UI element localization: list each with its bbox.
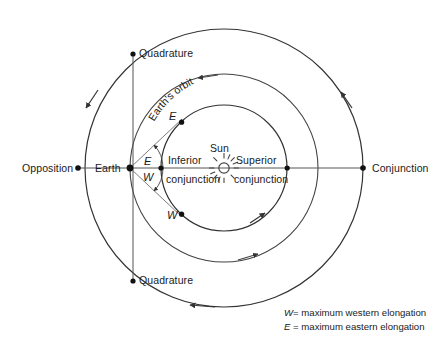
outer-orbit-direction-arrow-2 [341,92,352,108]
marker-opposition [75,165,81,171]
legend-text-west: maximum western elongation [301,307,426,318]
marker-quadrature-bottom [130,278,135,283]
label-quadrature-bottom: Quadrature [139,274,193,286]
label-sun: Sun [210,142,229,154]
label-earth: Earth [95,162,121,174]
label-elongation-east-angle: E [144,155,151,168]
marker-point-east [179,120,184,125]
marker-quadrature-top [130,51,135,56]
outer-orbit-direction-arrow [86,90,98,108]
marker-earth [127,165,134,172]
legend-equals-east: = [293,321,299,332]
label-superior-conjunction-line2: conjunction [234,173,288,185]
marker-conjunction [360,165,366,171]
label-point-west: W [167,209,177,222]
marker-superior-conjunction [285,165,290,170]
label-quadrature-top: Quadrature [139,47,193,59]
label-inferior-conjunction-line1: Inferior [168,154,201,166]
label-point-east: E [169,110,176,123]
legend-row-east: E = maximum eastern elongation [284,320,426,334]
label-opposition: Opposition [22,162,73,174]
legend-row-west: W= maximum western elongation [284,306,426,320]
marker-point-west [179,212,184,217]
label-superior-conjunction-line1: Superior [236,154,277,166]
legend-text-east: maximum eastern elongation [301,321,424,332]
legend-symbol-east: E [284,321,290,332]
legend-equals-west: = [293,307,299,318]
orbit-diagram: Earth's orbit Opposition Conjunction Qua… [0,0,448,355]
legend: W= maximum western elongation E = maximu… [284,306,426,334]
orbit-diagram-canvas: Earth's orbit [0,0,448,355]
legend-symbol-west: W [284,307,293,318]
label-inferior-conjunction-line2: conjunction [166,173,220,185]
label-conjunction: Conjunction [372,162,429,174]
label-elongation-west-angle: W [143,171,153,184]
marker-inferior-conjunction [158,165,163,170]
